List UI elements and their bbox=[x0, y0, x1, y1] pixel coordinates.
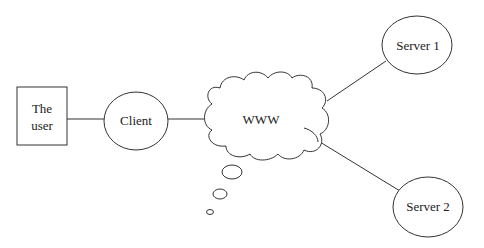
server2-label: Server 2 bbox=[406, 199, 450, 214]
network-diagram: The user Client WWW Server 1 Server 2 bbox=[0, 0, 484, 248]
www-label: WWW bbox=[243, 112, 281, 127]
thought-bubble-medium bbox=[213, 189, 227, 199]
user-box bbox=[17, 87, 67, 145]
client-label: Client bbox=[120, 113, 152, 128]
diagram-svg: The user Client WWW Server 1 Server 2 bbox=[0, 0, 484, 248]
edge-www-server2 bbox=[320, 142, 400, 191]
thought-bubble-small bbox=[207, 210, 214, 215]
user-label-line2: user bbox=[31, 118, 53, 133]
server1-label: Server 1 bbox=[396, 38, 440, 53]
thought-bubble-large bbox=[222, 165, 242, 179]
user-label-line1: The bbox=[32, 101, 52, 116]
edge-www-server1 bbox=[327, 61, 386, 101]
